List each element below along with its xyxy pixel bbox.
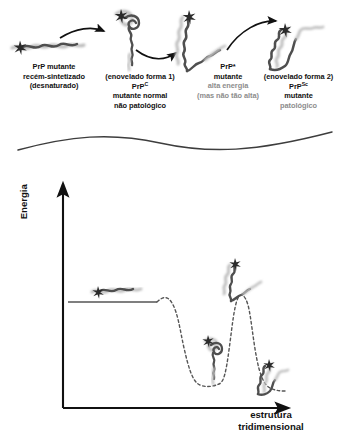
state-3-caption-line-1: PrP* [180, 62, 276, 72]
chart-icon-unfolded-chain [92, 286, 141, 299]
x-axis-label-line-2: tridimensional [205, 421, 337, 433]
beta-sheet-aggregate-icon [269, 23, 323, 70]
state-4-caption-line-4: patológico [248, 101, 349, 111]
wavy-divider [18, 132, 332, 150]
partially-folded-loop-icon [115, 9, 139, 70]
mutation-star-icon [202, 335, 214, 348]
arrow-3 [227, 21, 276, 50]
state-1-caption-line-1: PrP mutante [2, 62, 106, 72]
mutation-star-icon [92, 286, 104, 299]
state-4-caption-line-1: (enovelado forma 2) [248, 72, 349, 82]
y-axis-label: Energia [18, 167, 30, 237]
mutation-star-icon [14, 41, 27, 56]
mutation-star-icon [229, 258, 241, 271]
arrow-2 [136, 50, 176, 59]
state-4-caption-line-2: PrPSc [248, 82, 349, 92]
x-axis-label: estruturatridimensional [205, 409, 337, 432]
state-2-superscript: C [144, 80, 148, 86]
state-4-caption-line-3: mutante [248, 91, 349, 101]
unfolded-chain-icon [12, 41, 84, 56]
state-4-caption: (enovelado forma 2)PrPScmutantepatológic… [248, 72, 349, 110]
chart-axes [63, 184, 288, 408]
energy-curve-dashed [157, 295, 285, 391]
mutation-star-icon [183, 10, 196, 25]
diagram-canvas: PrP mutanterecém-sintetizado(desnaturado… [0, 0, 349, 441]
state-4-superscript: Sc [302, 80, 308, 86]
chart-icon-beta-sheet [258, 359, 288, 395]
arrow-1 [60, 28, 104, 38]
mutation-star-icon [279, 23, 292, 38]
chart-icon-folded-form1 [202, 335, 222, 384]
mutation-star-icon [115, 9, 128, 24]
mutation-star-icon [263, 359, 275, 372]
state-2-caption-line-4: não patológico [84, 101, 196, 111]
chart-icon-helical-intermediate [224, 258, 261, 301]
energy-profile [68, 295, 285, 391]
x-axis-label-line-1: estrutura [205, 409, 337, 421]
